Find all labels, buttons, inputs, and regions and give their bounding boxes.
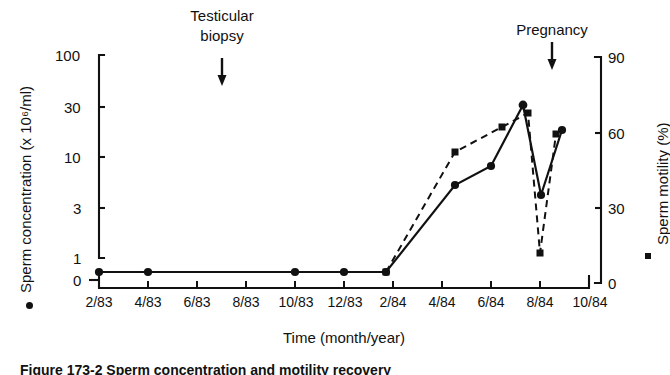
left-tick-3: 3 xyxy=(73,201,81,216)
left-tick-1: 1 xyxy=(73,251,81,266)
biopsy-arrow-icon xyxy=(218,58,227,86)
xtick-2: 6/83 xyxy=(183,295,210,309)
xtick-5: 12/83 xyxy=(327,295,362,309)
series-sperm-motility xyxy=(383,110,560,276)
xtick-4: 10/83 xyxy=(278,295,313,309)
series-sperm-concentration xyxy=(95,101,566,277)
right-tick-90: 90 xyxy=(608,50,625,65)
left-tick-0: 0 xyxy=(73,273,81,288)
bottom-axis-title: Time (month/year) xyxy=(283,330,405,345)
right-tick-0: 0 xyxy=(608,276,616,291)
xtick-3: 8/83 xyxy=(232,295,259,309)
left-axis-title: Sperm concentration (x 10⁶/ml) xyxy=(18,86,33,293)
xtick-6: 2/84 xyxy=(379,295,406,309)
xtick-8: 6/84 xyxy=(477,295,504,309)
right-legend-square-icon xyxy=(645,253,651,259)
pregnancy-annotation: Pregnancy xyxy=(516,22,588,37)
right-tick-30: 30 xyxy=(608,201,625,216)
left-tick-30: 30 xyxy=(64,100,81,115)
chart-canvas xyxy=(0,0,670,375)
right-axis-title: Sperm motility (%) xyxy=(655,122,670,245)
biopsy-annotation-line1: Testicular xyxy=(190,8,253,23)
left-legend-circle-icon xyxy=(26,302,33,309)
xtick-0: 2/83 xyxy=(85,295,112,309)
left-axis xyxy=(89,55,105,280)
xtick-1: 4/83 xyxy=(134,295,161,309)
xtick-10: 10/84 xyxy=(572,295,607,309)
figure-sperm-recovery-chart: Sperm concentration (x 10⁶/ml) 100 30 10… xyxy=(0,0,670,375)
bottom-axis xyxy=(99,276,589,288)
left-tick-10: 10 xyxy=(64,150,81,165)
figure-caption: Figure 173-2 Sperm concentration and mot… xyxy=(20,362,650,375)
xtick-9: 8/84 xyxy=(526,295,553,309)
xtick-7: 4/84 xyxy=(428,295,455,309)
left-tick-100: 100 xyxy=(55,48,80,63)
pregnancy-arrow-icon xyxy=(548,42,557,70)
right-tick-60: 60 xyxy=(608,126,625,141)
biopsy-annotation-line2: biopsy xyxy=(200,28,243,43)
right-axis xyxy=(595,57,602,283)
